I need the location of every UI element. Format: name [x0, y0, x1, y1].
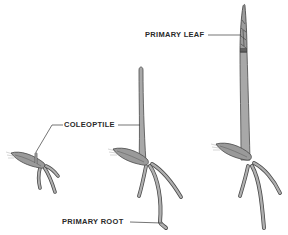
diagram-canvas — [0, 0, 288, 235]
seedling-stage-1 — [6, 152, 58, 192]
seed — [11, 152, 45, 168]
seedling-stage-2 — [108, 67, 181, 228]
label-coleoptile: COLEOPTILE — [64, 121, 115, 129]
label-primary-leaf: PRIMARY LEAF — [145, 31, 204, 39]
coleoptile-leader-line — [36, 125, 63, 152]
coleoptile — [240, 52, 250, 160]
seedling-diagram: COLEOPTILE PRIMARY LEAF PRIMARY ROOT — [0, 0, 288, 235]
coleoptile-stub — [35, 153, 37, 165]
primary-root-leader-line — [130, 222, 162, 223]
seedling-stage-3 — [211, 5, 280, 229]
label-primary-root: PRIMARY ROOT — [62, 218, 124, 226]
coleoptile — [139, 67, 146, 163]
